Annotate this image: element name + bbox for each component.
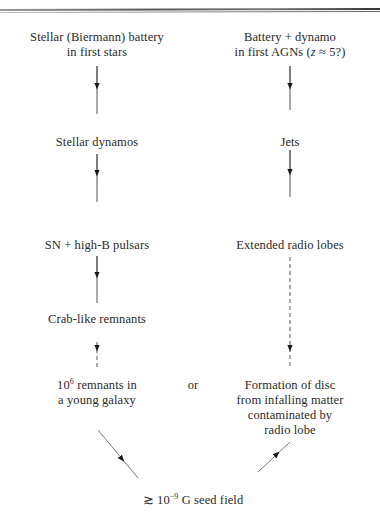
node-disc-formation: Formation of disc from infalling matter … (237, 378, 344, 438)
node-agn-battery: Battery + dynamo in first AGNs (z ≈ 5?) (235, 30, 346, 60)
node-radio-lobes: Extended radio lobes (236, 238, 344, 253)
node-jets: Jets (280, 135, 299, 150)
arrow-remnants-to-seed (98, 430, 138, 478)
node-crab-remnants: Crab-like remnants (48, 312, 146, 327)
node-seed-field: ≳ 10−9 G seed field (143, 493, 244, 508)
node-stellar-dynamos: Stellar dynamos (56, 135, 138, 150)
arrow-disc-to-seed (258, 442, 290, 472)
node-young-galaxy-remnants: 106 remnants in a young galaxy (57, 378, 137, 408)
or-connector: or (188, 378, 199, 393)
node-sn-pulsars: SN + high-B pulsars (45, 238, 149, 253)
connector-arrows (0, 0, 380, 525)
node-stellar-battery: Stellar (Biermann) battery in first star… (30, 30, 164, 60)
